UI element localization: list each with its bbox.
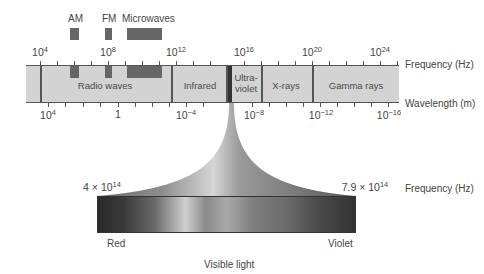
- visible-freq-high: 7.9 × 1014: [342, 180, 389, 193]
- visible-light-bar: [97, 196, 356, 233]
- visible-freq-low: 4 × 1014: [83, 180, 121, 193]
- violet-label: Violet: [328, 238, 353, 249]
- visible-light-title: Visible light: [204, 259, 254, 270]
- red-label: Red: [107, 238, 125, 249]
- visible-freq-unit: Frequency (Hz): [405, 183, 474, 194]
